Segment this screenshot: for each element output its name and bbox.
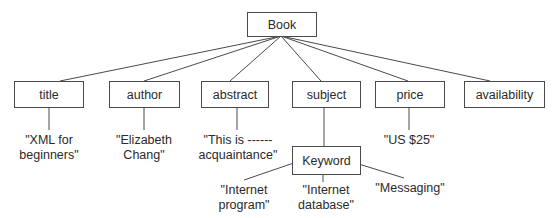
keyword-label: Keyword: [302, 154, 351, 168]
keyword-value-messaging: "Messaging": [368, 181, 452, 196]
availability-node: availability: [464, 81, 545, 108]
price-node: price: [375, 81, 445, 108]
subject-label: subject: [307, 88, 347, 102]
book-label: Book: [268, 18, 297, 32]
abstract-value: "This is ------ acquaintance": [190, 133, 286, 163]
abstract-label: abstract: [213, 88, 257, 102]
abstract-node: abstract: [201, 81, 269, 108]
author-label: author: [127, 88, 162, 102]
availability-label: availability: [476, 88, 534, 102]
price-label: price: [396, 88, 423, 102]
author-value: "Elizabeth Chang": [104, 133, 184, 163]
keyword-node: Keyword: [292, 146, 361, 175]
keyword-value-internet-program: "Internet program": [204, 183, 284, 213]
keyword-value-internet-database: "Internet database": [286, 183, 366, 213]
subject-node: subject: [292, 81, 361, 108]
author-node: author: [109, 81, 180, 108]
title-label: title: [39, 88, 58, 102]
title-node: title: [14, 81, 84, 108]
title-value: "XML for beginners": [9, 133, 89, 163]
price-value: "US $25": [369, 133, 449, 148]
book-node: Book: [247, 12, 317, 37]
